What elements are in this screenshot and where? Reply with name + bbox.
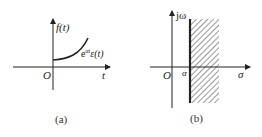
- figure-b: [150, 11, 250, 108]
- fb-sigma-label: σ: [238, 69, 243, 80]
- fa-caption: (a): [55, 114, 67, 125]
- diagram-canvas: [0, 0, 262, 137]
- fb-y-axis-label: jω: [176, 10, 186, 21]
- fa-curve-label: eαtε(t): [81, 48, 104, 59]
- fa-y-axis-label: f(t): [56, 22, 69, 33]
- fa-x-axis-label: t: [102, 70, 105, 81]
- roc-hatched-region: [190, 19, 219, 103]
- fa-curve-rest: ε(t): [90, 48, 103, 59]
- fa-origin-label: O: [43, 70, 51, 81]
- fb-alpha-label: α: [182, 69, 187, 78]
- fb-caption: (b): [190, 113, 203, 124]
- fb-origin-label: O: [163, 70, 171, 81]
